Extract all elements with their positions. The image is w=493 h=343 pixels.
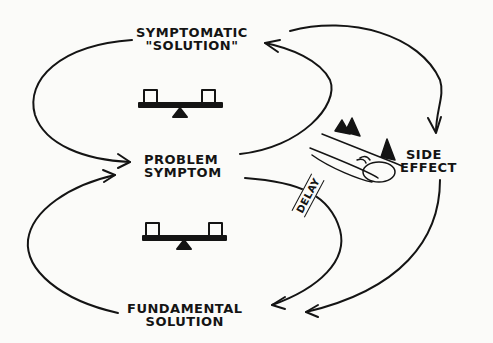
seesaw-icon (143, 223, 226, 249)
node-symptomatic-solution: SYMPTOMATIC "SOLUTION" (136, 26, 248, 52)
node-fundamental-solution-line2: SOLUTION (127, 315, 243, 328)
link-symptomatic-to-side-effect (290, 26, 442, 133)
link-problem-to-symptomatic (240, 40, 332, 154)
side-effect-illustration (310, 118, 402, 182)
link-problem-to-fundamental-delay (245, 178, 341, 309)
link-side-effect-to-fundamental (306, 180, 440, 317)
node-problem-symptom-line2: SYMPTOM (144, 166, 222, 179)
link-symptomatic-to-problem (33, 40, 132, 168)
node-fundamental-solution: FUNDAMENTAL SOLUTION (127, 302, 243, 328)
node-side-effect: SIDE EFFECT (400, 148, 457, 174)
node-side-effect-line2: EFFECT (400, 161, 457, 174)
link-fundamental-to-problem (28, 170, 118, 313)
node-symptomatic-solution-line2: "SOLUTION" (136, 39, 248, 52)
seesaw-icon (139, 90, 222, 117)
node-problem-symptom: PROBLEM SYMPTOM (144, 153, 222, 179)
